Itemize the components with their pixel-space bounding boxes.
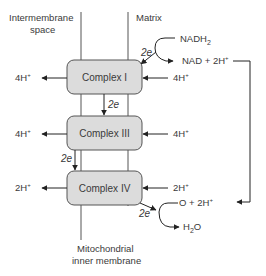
membrane-label-line2: inner membrane bbox=[72, 255, 141, 266]
complex-iii: Complex III bbox=[67, 116, 142, 150]
matrix-label: Matrix bbox=[136, 12, 162, 23]
nad-products-label: NAD + 2H+ bbox=[182, 55, 229, 66]
intermembrane-label-line2: space bbox=[30, 24, 55, 35]
c3-to-c4-electron-label: 2e bbox=[60, 153, 73, 164]
complex-i: Complex I bbox=[67, 60, 142, 94]
complex-iii-label: Complex III bbox=[79, 128, 130, 139]
membrane-label-line1: Mitochondrial bbox=[77, 243, 134, 254]
water-label: H2O bbox=[183, 221, 201, 234]
complex-iv-label: Complex IV bbox=[79, 183, 131, 194]
c3-proton-in-label: 4H+ bbox=[173, 128, 189, 139]
c1-proton-in-label: 4H+ bbox=[173, 72, 189, 83]
c3-proton-out-label: 4H+ bbox=[15, 128, 31, 139]
nadh-curve bbox=[155, 38, 175, 61]
nadh2-label: NADH2 bbox=[180, 33, 211, 46]
c4-proton-out-label: 2H+ bbox=[15, 182, 31, 193]
complex-iv: Complex IV bbox=[67, 171, 142, 205]
complex-i-label: Complex I bbox=[82, 72, 127, 83]
intermembrane-label-line1: Intermembrane bbox=[9, 12, 73, 23]
proton-loop-arrow bbox=[233, 61, 250, 202]
nadh-electron-label: 2e bbox=[140, 47, 153, 58]
c4-electron-label: 2e bbox=[138, 208, 151, 219]
electron-transport-diagram: Intermembrane space Matrix Mitochondrial… bbox=[0, 0, 266, 276]
c1-to-c3-electron-label: 2e bbox=[107, 99, 120, 110]
oxygen-label: O + 2H+ bbox=[179, 197, 213, 208]
c1-proton-out-label: 4H+ bbox=[15, 72, 31, 83]
oxygen-curve bbox=[159, 203, 178, 227]
c4-proton-in-label: 2H+ bbox=[173, 182, 189, 193]
